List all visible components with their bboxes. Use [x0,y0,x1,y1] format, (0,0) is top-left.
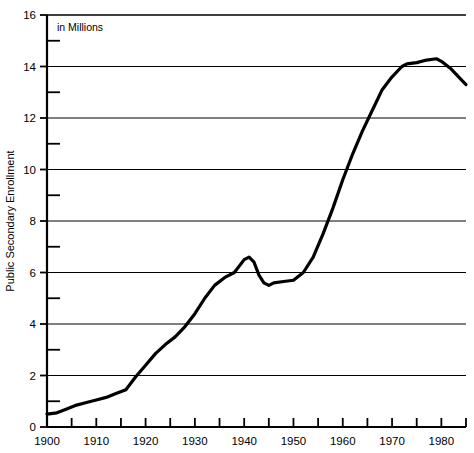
y-axis-tick-labels: 0246810121416 [23,9,36,433]
y-tick-label-14: 14 [23,61,36,73]
x-tick-label-1910: 1910 [83,435,109,447]
y-tick-label-2: 2 [30,370,36,382]
y-tick-label-6: 6 [30,267,36,279]
units-annotation: in Millions [57,21,103,33]
x-tick-label-1920: 1920 [133,435,159,447]
x-tick-label-1960: 1960 [330,435,356,447]
x-axis-minor-ticks [72,418,466,427]
y-tick-label-10: 10 [23,164,36,176]
x-tick-label-1900: 1900 [34,435,60,447]
x-tick-label-1940: 1940 [231,435,257,447]
x-tick-label-1930: 1930 [182,435,208,447]
y-axis-title: Public Secondary Enrollment [4,150,16,291]
x-tick-label-1950: 1950 [281,435,307,447]
enrollment-data-line [47,59,466,414]
y-tick-label-0: 0 [30,421,36,433]
x-axis-tick-labels: 190019101920193019401950196019701980 [34,435,454,447]
x-axis: 190019101920193019401950196019701980 [34,418,466,447]
y-tick-label-12: 12 [23,112,36,124]
x-tick-label-1970: 1970 [379,435,405,447]
grid-lines [47,15,466,376]
y-tick-label-4: 4 [30,318,37,330]
x-axis-major-ticks [47,418,441,427]
y-tick-label-16: 16 [23,9,36,21]
x-tick-label-1980: 1980 [429,435,455,447]
chart-container: 0246810121416 19001910192019301940195019… [0,0,474,453]
line-chart: 0246810121416 19001910192019301940195019… [0,0,474,453]
y-tick-label-8: 8 [30,215,36,227]
